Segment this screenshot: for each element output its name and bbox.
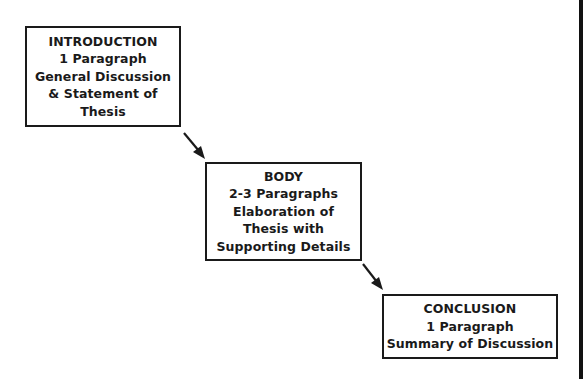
body-line-4: Supporting Details	[216, 238, 350, 256]
introduction-line-3: & Statement of	[48, 85, 157, 103]
conclusion-box: CONCLUSION 1 Paragraph Summary of Discus…	[382, 294, 558, 359]
introduction-title: INTRODUCTION	[48, 33, 157, 51]
body-line-1: 2-3 Paragraphs	[229, 185, 338, 203]
diagram-canvas: INTRODUCTION 1 Paragraph General Discuss…	[0, 0, 583, 379]
conclusion-line-2: Summary of Discussion	[387, 335, 554, 353]
body-line-2: Elaboration of	[233, 203, 334, 221]
arrow-intro-to-body-icon	[184, 133, 205, 159]
right-edge-border	[579, 0, 583, 379]
arrow-body-to-conclusion-icon	[363, 264, 383, 290]
body-box: BODY 2-3 Paragraphs Elaboration of Thesi…	[205, 162, 362, 261]
conclusion-title: CONCLUSION	[424, 300, 517, 318]
introduction-line-4: Thesis	[80, 103, 126, 121]
introduction-line-1: 1 Paragraph	[59, 50, 146, 68]
conclusion-line-1: 1 Paragraph	[426, 318, 513, 336]
body-title: BODY	[264, 168, 303, 186]
body-line-3: Thesis with	[243, 220, 324, 238]
introduction-line-2: General Discussion	[35, 68, 171, 86]
introduction-box: INTRODUCTION 1 Paragraph General Discuss…	[25, 26, 181, 127]
